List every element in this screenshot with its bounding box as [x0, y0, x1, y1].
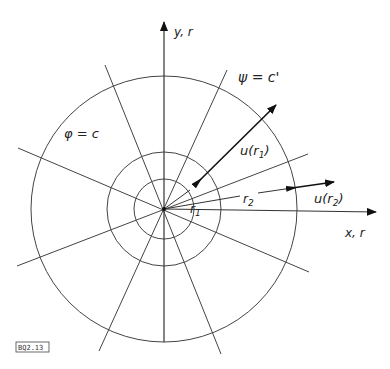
u-r2-vector [292, 182, 334, 188]
u-r2-label: u(r2) [314, 191, 343, 208]
x-axis-label: x, r [344, 226, 366, 240]
y-axis-label: y, r [173, 25, 194, 39]
origin-point [162, 207, 166, 211]
r2-ray [164, 196, 240, 209]
r2-label: r2 [243, 192, 254, 208]
u-r1-label: u(r1) [240, 143, 269, 160]
potential-line-label: φ = c [64, 126, 99, 141]
figure-tag: BQ2.13 [18, 344, 43, 352]
r2-ray-continued [258, 188, 292, 193]
polar-flow-diagram: y, r x, r φ = c ψ = c' r1 r2 u(r1) u(r2)… [0, 0, 390, 369]
r1-label: r1 [190, 202, 201, 218]
stream-line-label: ψ = c' [238, 69, 279, 85]
